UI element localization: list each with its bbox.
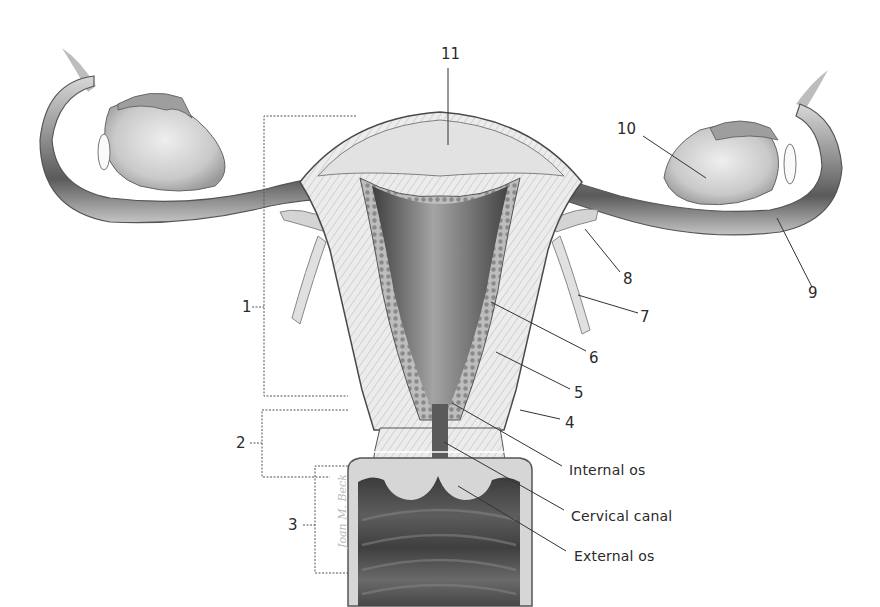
uterus-diagram: 11 10 9 8 7 6 5 4 1 2 3 Internal os Cerv… xyxy=(0,0,880,607)
label-7: 7 xyxy=(640,310,650,325)
left-round-ligament xyxy=(292,236,326,324)
artist-signature: Joan M. Beck xyxy=(336,474,349,548)
label-9: 9 xyxy=(808,286,818,301)
uterine-fundus xyxy=(318,120,564,176)
right-tube-lumen xyxy=(784,144,796,184)
leader-4 xyxy=(520,410,560,419)
right-round-ligament xyxy=(552,236,590,334)
leader-8 xyxy=(585,229,620,272)
label-2: 2 xyxy=(236,436,246,451)
leader-7 xyxy=(578,295,638,313)
label-11: 11 xyxy=(441,47,460,62)
label-10: 10 xyxy=(617,122,636,137)
left-tube-lumen xyxy=(98,134,110,170)
label-cervical-canal: Cervical canal xyxy=(571,509,672,523)
label-4: 4 xyxy=(565,416,575,431)
label-5: 5 xyxy=(574,386,584,401)
label-external-os: External os xyxy=(574,549,655,563)
bracket-2 xyxy=(262,410,348,477)
label-1: 1 xyxy=(242,300,252,315)
label-8: 8 xyxy=(623,272,633,287)
label-3: 3 xyxy=(288,518,298,533)
left-ovary xyxy=(105,98,225,191)
anatomy-illustration xyxy=(0,0,880,607)
right-suspensory-ligament xyxy=(796,70,828,108)
label-internal-os: Internal os xyxy=(569,463,645,477)
label-6: 6 xyxy=(589,351,599,366)
